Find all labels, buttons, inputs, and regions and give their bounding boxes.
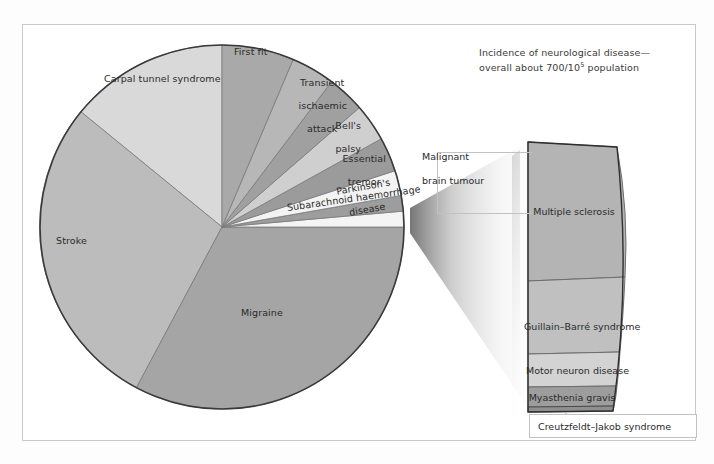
panel-label-creutzfeldt-jakob-syndrome: Creutzfeldt–Jakob syndrome bbox=[538, 421, 671, 432]
chart-title-line-2-pre: overall about 700/10 bbox=[479, 62, 580, 73]
tia-line-1: Transient bbox=[300, 77, 344, 88]
bells-line-1: Bell's bbox=[335, 120, 361, 131]
malignant-line-1: Malignant bbox=[422, 151, 469, 162]
panel-label-guillain-barre-syndrome: Guillain–Barré syndrome bbox=[524, 321, 624, 332]
pie-label-malignant-brain-tumour: Malignant brain tumour bbox=[410, 139, 484, 199]
figure-root: Incidence of neurological disease— overa… bbox=[0, 0, 714, 464]
chart-title-line-2-post: population bbox=[584, 62, 639, 73]
essential-line-1: Essential bbox=[342, 153, 386, 164]
pie-label-stroke: Stroke bbox=[56, 235, 87, 247]
panel-label-multiple-sclerosis: Multiple sclerosis bbox=[528, 206, 620, 217]
pie-label-migraine: Migraine bbox=[241, 307, 283, 319]
chart-title-line-1: Incidence of neurological disease— bbox=[479, 47, 650, 58]
chart-title: Incidence of neurological disease— overa… bbox=[479, 46, 684, 74]
creutzfeldt-jakob-label-box: Creutzfeldt–Jakob syndrome bbox=[529, 414, 697, 438]
panel-label-motor-neuron-disease: Motor neuron disease bbox=[526, 365, 622, 376]
pie-label-first-fit: First fit bbox=[234, 46, 268, 58]
panel-label-myasthenia-gravis: Myasthenia gravis bbox=[526, 392, 618, 403]
figure-frame bbox=[22, 24, 696, 441]
malignant-line-2: brain tumour bbox=[422, 175, 484, 186]
pie-label-carpal-tunnel-syndrome: Carpal tunnel syndrome bbox=[104, 73, 221, 85]
